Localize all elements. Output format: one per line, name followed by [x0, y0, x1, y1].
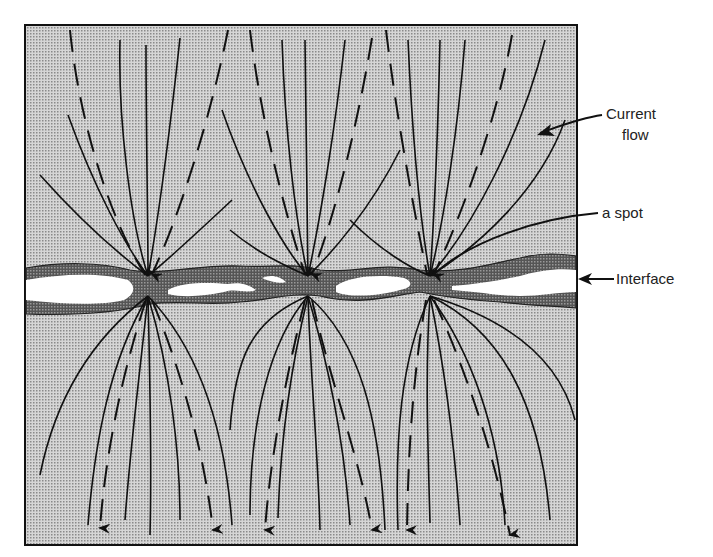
current-flow-label-line1: Current: [606, 105, 657, 122]
constriction-resistance-diagram: Current flow a spot Interface: [0, 0, 713, 557]
a-spot-right: [418, 275, 442, 291]
interface-label: Interface: [616, 270, 674, 287]
label-interface: Interface: [578, 270, 674, 287]
a-spot-label: a spot: [602, 204, 644, 221]
current-flow-label-line2: flow: [622, 126, 649, 143]
a-spot-left: [136, 275, 160, 291]
a-spot-middle: [294, 275, 322, 291]
interface-gap: [26, 275, 133, 304]
